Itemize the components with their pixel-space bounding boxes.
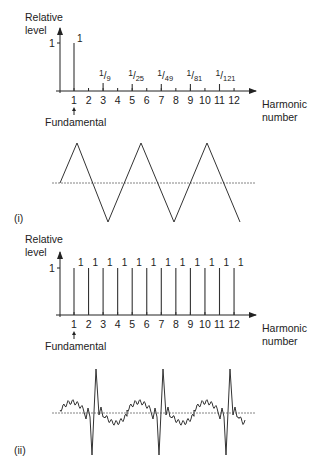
bar-value-label: 1 [238,257,244,268]
x-tick-label: 12 [228,94,240,106]
spectrum-bars: 111111111111 [74,257,244,315]
x-tick-label: 6 [144,94,150,106]
x-tick-label: 8 [173,94,179,106]
bar-value-label: 1/25 [128,68,144,83]
bar-value-label: 1 [194,257,200,268]
x-tick-label: 4 [115,318,121,330]
bar-value-label: 1 [107,257,113,268]
x-tick-label: 3 [100,94,106,106]
triangle-waveform: (i) [14,143,256,224]
x-tick-label: 5 [129,318,135,330]
x-tick-label: 10 [199,318,211,330]
x-tick-label: 7 [158,94,164,106]
bar-value-label: 1/81 [186,68,202,83]
x-tick-label: 3 [100,318,106,330]
x-tick-label: 8 [173,318,179,330]
y-axis-label: Relative [25,233,63,245]
arrow-up-icon [72,331,76,335]
y-axis-label: level [25,246,47,258]
x-axis-label: number [262,111,298,123]
bar-value-label: 1 [77,33,83,44]
bar-value-label: 1 [165,257,171,268]
x-axis-label: number [262,335,298,347]
x-tick-label: 2 [86,94,92,106]
harmonic-spectrum-diagram: Relative level 1 123456789101112 11/91/2… [0,0,309,475]
x-tick-label: 4 [115,94,121,106]
bar-value-label: 1 [209,257,215,268]
x-tick-label: 2 [86,318,92,330]
x-tick-label: 9 [187,318,193,330]
x-tick-label: 9 [187,94,193,106]
bar-value-label: 1 [180,257,186,268]
bar-value-label: 1 [151,257,157,268]
bar-value-label: 1/49 [157,68,173,83]
x-tick-label: 11 [214,318,225,330]
x-tick-label: 11 [214,94,225,106]
x-tick-label: 12 [228,318,240,330]
x-tick-label: 5 [129,94,135,106]
arrow-up-icon [72,107,76,111]
pulse-wave [60,369,245,455]
bar-value-label: 1/121 [216,68,236,83]
x-axis-label: Harmonic [262,322,307,334]
x-tick-label: 1 [71,94,77,106]
spectrum-bars: 11/91/251/491/811/121 [74,33,236,91]
x-tick-label: 6 [144,318,150,330]
bar-value-label: 1 [93,257,99,268]
bar-value-label: 1 [78,257,84,268]
pulse-waveform: (ii) [14,369,256,456]
fundamental-label: Fundamental [45,116,106,128]
bar-value-label: 1 [136,257,142,268]
bar-value-label: 1 [224,257,230,268]
x-tick-label: 7 [158,318,164,330]
y-tick-label: 1 [49,37,55,49]
triangle-wave [60,143,240,222]
x-tick-label: 1 [71,318,77,330]
panel-label: (i) [14,212,23,224]
panel-ii-spectrum: Relative level 1 123456789101112 1111111… [25,233,307,352]
panel-label: (ii) [14,444,26,456]
panel-i-spectrum: Relative level 1 123456789101112 11/91/2… [25,11,307,128]
bar-value-label: 1 [122,257,128,268]
y-tick-label: 1 [49,262,55,274]
x-axis-label: Harmonic [262,98,307,110]
y-axis-label: Relative [25,11,63,23]
bar-value-label: 1/9 [99,68,111,83]
x-tick-label: 10 [199,94,211,106]
y-axis-label: level [25,24,47,36]
fundamental-label: Fundamental [45,340,106,352]
